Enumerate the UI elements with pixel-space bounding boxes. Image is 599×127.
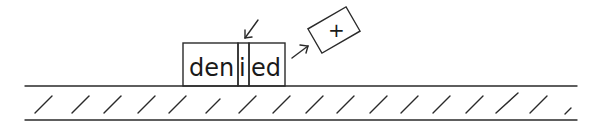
down-arrow-icon	[245, 20, 258, 38]
segment-ed: ed	[251, 54, 281, 82]
plus-tile: +	[308, 7, 361, 55]
word-diagram: den i ed +	[0, 0, 599, 127]
word-boxes: den i ed	[183, 43, 285, 86]
segment-i: i	[239, 54, 246, 82]
plus-icon: +	[328, 18, 345, 42]
segment-den: den	[189, 54, 234, 82]
ground-hatch	[35, 93, 571, 114]
right-arrow-icon	[292, 45, 308, 58]
